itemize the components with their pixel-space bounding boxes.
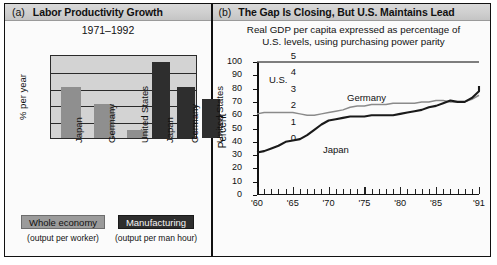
x-tick-label-91: '91 [466, 198, 491, 208]
x-tick-label-70: '70 [316, 198, 342, 208]
panel-b-title: The Gap Is Closing, But U.S. Maintains L… [238, 6, 454, 18]
y-tick-b-80: 80 [208, 84, 242, 93]
panel-a-y-axis-label: % per year [17, 62, 28, 132]
y-tick-mark-b-0 [253, 195, 257, 196]
panel-b-header: (b) The Gap Is Closing, But U.S. Maintai… [213, 4, 492, 21]
x-tick-label-85: '85 [423, 198, 449, 208]
y-tick-a-5: 5 [256, 51, 296, 61]
y-tick-b-30: 30 [208, 150, 242, 159]
legend-whole-economy-sub: (output per worker) [21, 233, 105, 243]
x-tick-label-80: '80 [387, 198, 413, 208]
panel-a-title: Labor Productivity Growth [33, 6, 163, 18]
x-tick-label-60: '60 [244, 198, 270, 208]
series-label-us: U.S. [269, 74, 287, 85]
figure-container: (a) Labor Productivity Growth 1971–1992 … [4, 3, 491, 257]
series-label-germany: Germany [347, 92, 386, 103]
panel-a-header: (a) Labor Productivity Growth [5, 4, 211, 21]
y-tick-b-70: 70 [208, 97, 242, 106]
cat-label-manu-germany: Germany [189, 104, 200, 143]
legend-manufacturing-sub: (output per man hour) [110, 233, 202, 243]
cat-label-whole-germany: Germany [106, 104, 117, 143]
panel-a-subtitle: 1971–1992 [5, 24, 211, 36]
y-tick-b-100: 100 [208, 57, 242, 66]
gridline-a-4 [51, 73, 196, 74]
panel-a-letter: (a) [12, 6, 25, 18]
y-tick-b-10: 10 [208, 177, 242, 186]
cat-label-whole-united-states: United States [139, 86, 150, 143]
legend-whole-economy: Whole economy [21, 215, 105, 229]
x-tick-label-75: '75 [351, 198, 377, 208]
panel-b-plot-area [257, 62, 479, 195]
panel-b-subtitle: Real GDP per capita expressed as percent… [215, 24, 491, 47]
panel-b-letter: (b) [219, 6, 232, 18]
panel-b-subtitle-line2: U.S. levels, using purchasing power pari… [215, 36, 491, 48]
y-tick-b-90: 90 [208, 70, 242, 79]
y-tick-b-40: 40 [208, 137, 242, 146]
x-tick-mark-1991 [479, 187, 480, 194]
legend-manufacturing: Manufacturing [118, 215, 194, 229]
cat-label-whole-japan: Japan [73, 117, 84, 143]
y-tick-b-0: 0 [208, 190, 242, 199]
cat-label-manu-japan: Japan [164, 117, 175, 143]
panel-b-subtitle-line1: Real GDP per capita expressed as percent… [215, 24, 491, 36]
y-tick-b-50: 50 [208, 124, 242, 133]
y-tick-b-20: 20 [208, 163, 242, 172]
y-tick-b-60: 60 [208, 110, 242, 119]
x-tick-label-65: '65 [280, 198, 306, 208]
series-label-japan: Japan [323, 144, 349, 155]
